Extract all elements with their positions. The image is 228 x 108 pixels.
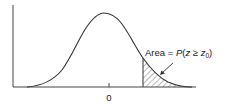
- zero-tick-label: 0: [106, 92, 111, 103]
- normal-curve-diagram: 0 Area = P(z ≥ z0): [0, 0, 228, 108]
- area-annotation: Area = P(z ≥ z0): [145, 47, 212, 59]
- annotation-arrow: [162, 63, 173, 73]
